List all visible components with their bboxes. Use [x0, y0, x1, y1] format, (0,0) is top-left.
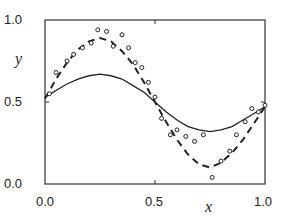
data-point: [153, 95, 157, 99]
data-point: [256, 110, 260, 114]
data-point: [146, 80, 150, 84]
data-point: [89, 41, 93, 45]
x-tick-label-0: 0.0: [36, 194, 54, 209]
data-point: [193, 139, 197, 143]
chart: 1.0 0.5 0.0 0.0 0.5 1.0 y x: [0, 0, 284, 219]
data-point: [47, 92, 51, 96]
data-point: [140, 66, 144, 70]
x-tick-label-05: 0.5: [145, 194, 163, 209]
data-point: [160, 116, 164, 120]
x-tick-label-1: 1.0: [254, 194, 272, 209]
data-point: [228, 149, 232, 153]
data-point: [175, 128, 179, 132]
data-point: [120, 33, 124, 37]
x-axis-label: x: [204, 198, 212, 215]
data-point: [243, 120, 247, 124]
data-point: [65, 59, 69, 63]
y-tick-label-05: 0.5: [4, 94, 22, 109]
data-point: [210, 175, 214, 179]
data-point: [80, 46, 84, 50]
data-point: [72, 52, 76, 56]
y-axis-label: y: [13, 50, 23, 68]
data-point: [168, 133, 172, 137]
data-point: [219, 159, 223, 163]
data-point: [263, 103, 267, 107]
dashed-curve: [45, 38, 265, 168]
data-point: [127, 46, 131, 50]
series-layer: [45, 28, 267, 180]
data-point: [111, 44, 115, 48]
y-tick-label-1: 1.0: [4, 12, 22, 27]
data-point: [54, 70, 58, 74]
data-point: [96, 28, 100, 32]
data-point: [184, 134, 188, 138]
data-point: [133, 61, 137, 65]
data-point: [234, 133, 238, 137]
data-point: [201, 133, 205, 137]
data-point: [105, 29, 109, 33]
data-point: [250, 107, 254, 111]
y-tick-label-0: 0.0: [4, 176, 22, 191]
